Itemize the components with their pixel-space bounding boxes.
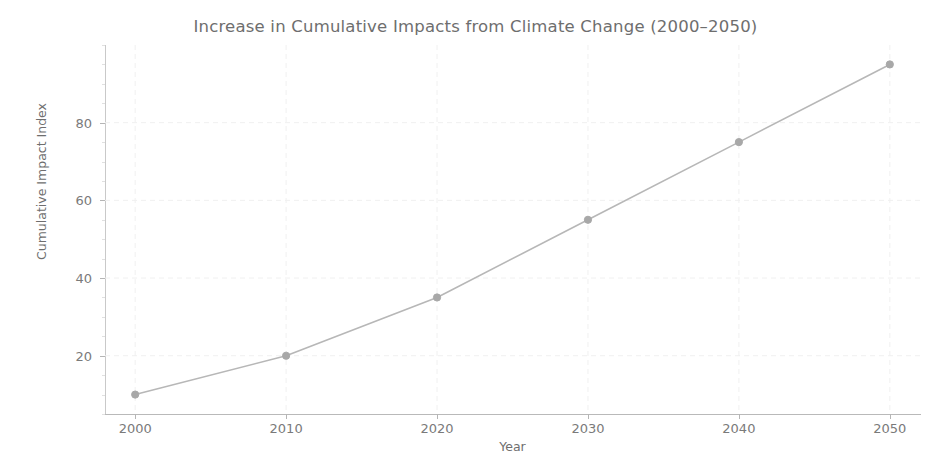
x-major-tick	[588, 414, 589, 419]
plot-svg	[105, 45, 920, 414]
x-major-tick	[135, 414, 136, 419]
x-axis-label: Year	[105, 439, 920, 454]
plot-area	[105, 45, 920, 414]
x-tick-label-2020: 2020	[420, 421, 453, 436]
chart-figure: Increase in Cumulative Impacts from Clim…	[0, 0, 951, 460]
data-point-markers	[132, 61, 894, 398]
data-point-marker	[886, 61, 893, 68]
chart-title: Increase in Cumulative Impacts from Clim…	[0, 17, 951, 36]
y-axis-label: Cumulative Impact Index	[34, 27, 49, 337]
x-tick-label-2000: 2000	[119, 421, 152, 436]
y-minor-tick	[102, 414, 105, 415]
x-tick-label-2030: 2030	[571, 421, 604, 436]
data-point-marker	[433, 294, 440, 301]
x-tick-label-2050: 2050	[873, 421, 906, 436]
x-tick-label-2010: 2010	[270, 421, 303, 436]
data-line-group	[135, 64, 890, 394]
gridlines	[105, 45, 920, 414]
data-point-marker	[735, 139, 742, 146]
y-tick-label-20: 20	[0, 348, 92, 363]
x-major-tick	[286, 414, 287, 419]
x-major-tick	[739, 414, 740, 419]
data-point-marker	[132, 391, 139, 398]
x-axis-spine	[105, 414, 921, 415]
x-tick-label-2040: 2040	[722, 421, 755, 436]
data-line-series-0	[135, 64, 890, 394]
x-major-tick	[437, 414, 438, 419]
data-point-marker	[283, 352, 290, 359]
data-point-marker	[584, 216, 591, 223]
x-major-tick	[890, 414, 891, 419]
